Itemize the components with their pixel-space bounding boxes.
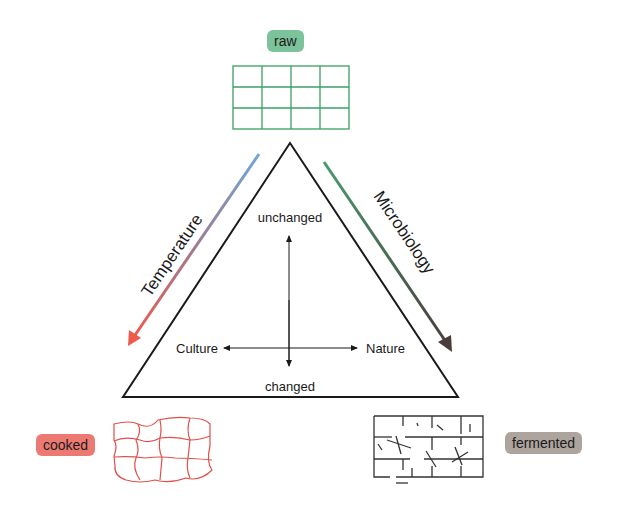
raw-grid-icon bbox=[233, 66, 349, 129]
temperature-arrow bbox=[128, 154, 259, 346]
raw-state-badge: raw bbox=[267, 30, 304, 52]
changed-label: changed bbox=[265, 379, 315, 394]
fermented-broken-grid-icon bbox=[374, 416, 483, 483]
cooked-state-badge: cooked bbox=[36, 434, 95, 456]
microbiology-label: Microbiology bbox=[370, 188, 439, 278]
cooked-deformed-grid-icon bbox=[114, 417, 212, 482]
nature-label: Nature bbox=[366, 341, 405, 356]
culture-label: Culture bbox=[176, 341, 218, 356]
unchanged-label: unchanged bbox=[258, 210, 322, 225]
fermented-state-badge: fermented bbox=[505, 432, 582, 454]
